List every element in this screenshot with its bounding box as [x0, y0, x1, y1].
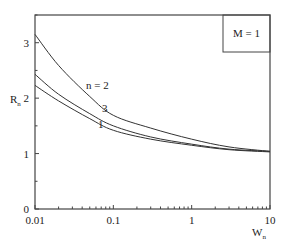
- y-tick-label: 2: [24, 92, 30, 104]
- plot-frame: [35, 15, 270, 209]
- curve-label: n = 2: [86, 79, 109, 91]
- curve-1: [35, 85, 270, 152]
- axes-frame: 01230.010.1110: [24, 15, 277, 226]
- y-axis-label: Rn: [10, 93, 21, 108]
- x-axis-label: Wn: [252, 226, 266, 241]
- chart: 01230.010.1110 n = 231 Rn Wn M = 1: [0, 0, 285, 248]
- y-tick-label: 1: [24, 148, 30, 160]
- x-tick-label: 1: [189, 214, 195, 226]
- x-tick-label: 0.1: [106, 214, 120, 226]
- x-tick-label: 0.01: [25, 214, 44, 226]
- curve-label: 3: [102, 102, 108, 114]
- annotation-text: M = 1: [233, 27, 260, 39]
- curve-label: 1: [98, 118, 104, 130]
- x-tick-label: 10: [265, 214, 277, 226]
- y-tick-label: 3: [24, 37, 30, 49]
